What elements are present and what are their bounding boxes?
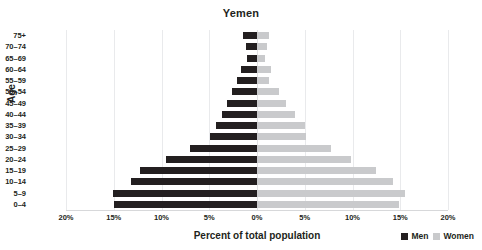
- bar-men: [241, 66, 257, 73]
- bar-men: [131, 178, 257, 185]
- bar-women: [257, 43, 267, 50]
- x-axis-tick-label: 10%: [345, 213, 360, 222]
- bar-women: [257, 100, 286, 107]
- age-group-label: 50–54: [0, 86, 26, 97]
- bar-women: [257, 77, 269, 84]
- bar-men: [114, 201, 257, 208]
- bar-rows: 75+70–7465–6960–6455–5950–5445–4940–4435…: [66, 30, 448, 210]
- x-axis-tick-label: 5%: [204, 213, 215, 222]
- bar-row: 40–44: [66, 109, 448, 120]
- chart-legend: MenWomen: [401, 231, 474, 241]
- gridline: [448, 30, 449, 210]
- age-group-label: 30–34: [0, 131, 26, 142]
- bar-men: [246, 43, 257, 50]
- bar-men: [113, 190, 257, 197]
- age-group-label: 70–74: [0, 41, 26, 52]
- legend-label: Men: [411, 231, 428, 241]
- bar-women: [257, 156, 351, 163]
- bar-men: [227, 100, 257, 107]
- bar-row: 60–64: [66, 64, 448, 75]
- x-axis-tick-label: 5%: [299, 213, 310, 222]
- age-group-label: 75+: [0, 30, 26, 41]
- bar-women: [257, 55, 265, 62]
- bar-row: 0–4: [66, 199, 448, 210]
- bar-women: [257, 201, 399, 208]
- x-axis-tick-label: 20%: [58, 213, 73, 222]
- age-group-label: 15–19: [0, 165, 26, 176]
- plot-area: 75+70–7465–6960–6455–5950–5445–4940–4435…: [66, 30, 448, 210]
- bar-row: 50–54: [66, 86, 448, 97]
- x-axis-title: Percent of total population: [66, 230, 448, 241]
- age-group-label: 65–69: [0, 53, 26, 64]
- bar-women: [257, 190, 405, 197]
- age-group-label: 55–59: [0, 75, 26, 86]
- bar-row: 55–59: [66, 75, 448, 86]
- age-group-label: 45–49: [0, 98, 26, 109]
- legend-item: Women: [433, 231, 474, 241]
- bar-women: [257, 88, 279, 95]
- bar-men: [190, 145, 257, 152]
- x-axis-tick-label: 20%: [440, 213, 455, 222]
- bar-women: [257, 167, 376, 174]
- bar-women: [257, 32, 269, 39]
- age-group-label: 60–64: [0, 64, 26, 75]
- bar-men: [166, 156, 257, 163]
- bar-men: [140, 167, 257, 174]
- bar-women: [257, 111, 295, 118]
- bar-row: 75+: [66, 30, 448, 41]
- bar-row: 5–9: [66, 188, 448, 199]
- bar-men: [243, 32, 257, 39]
- bar-men: [247, 55, 257, 62]
- age-group-label: 25–29: [0, 143, 26, 154]
- legend-item: Men: [401, 231, 428, 241]
- x-axis-tick-label: 15%: [106, 213, 121, 222]
- population-pyramid-chart: Yemen Age 75+70–7465–6960–6455–5950–5445…: [0, 0, 482, 250]
- x-axis-tick-label: 10%: [154, 213, 169, 222]
- bar-women: [257, 122, 305, 129]
- bar-row: 65–69: [66, 53, 448, 64]
- age-group-label: 5–9: [0, 188, 26, 199]
- x-axis-tick-label: 0%: [252, 213, 263, 222]
- bar-row: 10–14: [66, 176, 448, 187]
- age-group-label: 10–14: [0, 176, 26, 187]
- legend-label: Women: [443, 231, 474, 241]
- bar-women: [257, 145, 331, 152]
- bar-men: [216, 122, 257, 129]
- chart-title: Yemen: [0, 7, 482, 19]
- age-group-label: 40–44: [0, 109, 26, 120]
- bar-men: [237, 77, 257, 84]
- bar-row: 20–24: [66, 154, 448, 165]
- bar-men: [210, 133, 257, 140]
- bar-row: 25–29: [66, 143, 448, 154]
- bar-women: [257, 178, 393, 185]
- bar-women: [257, 66, 271, 73]
- bar-women: [257, 133, 306, 140]
- bar-men: [222, 111, 257, 118]
- x-axis-baseline: [66, 210, 448, 211]
- legend-swatch: [401, 233, 408, 240]
- bar-row: 15–19: [66, 165, 448, 176]
- age-group-label: 0–4: [0, 199, 26, 210]
- age-group-label: 20–24: [0, 154, 26, 165]
- bar-row: 30–34: [66, 131, 448, 142]
- bar-row: 35–39: [66, 120, 448, 131]
- age-group-label: 35–39: [0, 120, 26, 131]
- legend-swatch: [433, 233, 440, 240]
- bar-men: [232, 88, 257, 95]
- bar-row: 45–49: [66, 98, 448, 109]
- bar-row: 70–74: [66, 41, 448, 52]
- x-axis-tick-label: 15%: [393, 213, 408, 222]
